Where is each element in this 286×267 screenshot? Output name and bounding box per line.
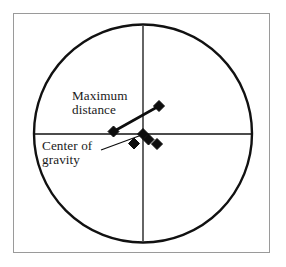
data-point-marker (108, 126, 119, 137)
figure-container: Maximum distance Center of gravity (0, 0, 286, 267)
center-of-gravity-label: Center of gravity (42, 139, 92, 166)
data-point-marker (154, 101, 165, 112)
maximum-distance-label-line2: distance (72, 103, 128, 117)
center-of-gravity-label-line2: gravity (42, 153, 92, 167)
maximum-distance-label-line1: Maximum (72, 89, 128, 103)
target-scatter-diagram (0, 0, 286, 267)
center-of-gravity-label-line1: Center of (42, 139, 92, 153)
maximum-distance-label: Maximum distance (72, 89, 128, 116)
